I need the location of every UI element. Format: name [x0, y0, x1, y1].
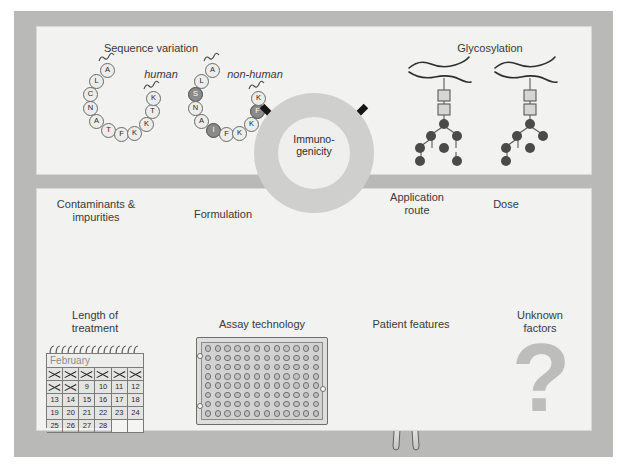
plate-well — [313, 392, 319, 398]
plate-well — [234, 410, 240, 416]
plate-well — [313, 345, 319, 351]
plate-well — [264, 355, 270, 361]
plate-well — [313, 382, 319, 388]
plate-well — [264, 345, 270, 351]
plate-well — [274, 401, 280, 407]
plate-well — [224, 364, 230, 370]
calendar-day-2: 2 — [63, 368, 79, 381]
immunogenicity-figure: Sequence variation human non-human Glyco… — [0, 0, 627, 467]
plate-well — [264, 373, 270, 379]
plate-well — [293, 355, 299, 361]
plate-well — [313, 355, 319, 361]
plate-well — [303, 373, 309, 379]
plate-well — [274, 345, 280, 351]
calendar-day-18: 18 — [128, 394, 144, 407]
plate-well — [274, 392, 280, 398]
calendar-month: February — [46, 353, 144, 367]
plate-well — [254, 382, 260, 388]
plate-well — [283, 373, 289, 379]
plate-well — [205, 345, 211, 351]
question-mark-icon: ? — [498, 332, 584, 424]
calendar-day-27: 27 — [79, 420, 95, 433]
plate-well — [244, 373, 250, 379]
calendar-day-5: 5 — [112, 368, 128, 381]
calendar-day-14: 14 — [63, 394, 79, 407]
plate-well — [254, 364, 260, 370]
calendar-day-28: 28 — [95, 420, 111, 433]
residue-nonhuman-3: S — [188, 87, 203, 102]
plate-well — [274, 382, 280, 388]
plate-well — [215, 373, 221, 379]
calendar-day-3: 3 — [79, 368, 95, 381]
calendar-day-12: 12 — [128, 381, 144, 394]
calendar-day-23: 23 — [112, 407, 128, 420]
calendar-day-16: 16 — [95, 394, 111, 407]
plate-well — [244, 364, 250, 370]
calendar-day-11: 11 — [112, 381, 128, 394]
plate-well — [264, 410, 270, 416]
plate-well — [244, 401, 250, 407]
plate-well — [293, 401, 299, 407]
caption-sequence-variation: Sequence variation — [76, 42, 226, 55]
calendar-day-8: 8 — [63, 381, 79, 394]
plate-well — [313, 373, 319, 379]
plate-well — [283, 392, 289, 398]
plate-notch-1 — [197, 353, 203, 359]
plate-well — [283, 345, 289, 351]
plate-well — [205, 364, 211, 370]
plate-well — [254, 401, 260, 407]
caption-dose: Dose — [481, 198, 531, 211]
plate-well — [293, 373, 299, 379]
caption-glycosylation: Glycosylation — [425, 42, 555, 55]
plate-well — [293, 364, 299, 370]
plate-well — [254, 410, 260, 416]
plate-well — [264, 382, 270, 388]
plate-well — [215, 355, 221, 361]
caption-patient-features: Patient features — [360, 318, 462, 331]
plate-well — [215, 401, 221, 407]
plate-well — [283, 355, 289, 361]
plate-well — [224, 382, 230, 388]
plate-well — [205, 410, 211, 416]
plate-well — [234, 364, 240, 370]
calendar-icon: February 1234567891011121314151617181920… — [46, 345, 144, 428]
plate-well — [205, 355, 211, 361]
plate-well — [244, 345, 250, 351]
calendar-day-26: 26 — [63, 420, 79, 433]
calendar-day-15: 15 — [79, 394, 95, 407]
plate-well — [313, 401, 319, 407]
label-human: human — [126, 68, 196, 81]
calendar-day-17: 17 — [112, 394, 128, 407]
plate-well — [283, 364, 289, 370]
plate-well — [303, 410, 309, 416]
calendar-day-7: 7 — [47, 381, 63, 394]
plate-well — [274, 364, 280, 370]
plate-well — [274, 373, 280, 379]
plate-well — [264, 364, 270, 370]
plate-well — [215, 382, 221, 388]
calendar-day-4: 4 — [95, 368, 111, 381]
plate-well — [205, 373, 211, 379]
plate-well — [264, 401, 270, 407]
caption-length-of-treatment: Length of treatment — [47, 309, 143, 334]
plate-well — [234, 392, 240, 398]
plate-well — [215, 392, 221, 398]
plate-well — [234, 355, 240, 361]
calendar-cell-empty — [128, 420, 144, 433]
plate-well — [205, 392, 211, 398]
plate-well — [283, 382, 289, 388]
plate-well — [313, 364, 319, 370]
plate-well — [215, 364, 221, 370]
plate-well — [303, 355, 309, 361]
calendar-cell-empty — [112, 420, 128, 433]
calendar-day-13: 13 — [47, 394, 63, 407]
plate-well — [224, 345, 230, 351]
calendar-day-9: 9 — [79, 381, 95, 394]
plate-notch-3 — [197, 403, 203, 409]
plate-well — [244, 355, 250, 361]
plate-well — [224, 355, 230, 361]
caption-contaminants: Contaminants & impurities — [44, 198, 148, 223]
plate-well — [313, 410, 319, 416]
plate-well — [224, 410, 230, 416]
plate-well — [293, 392, 299, 398]
